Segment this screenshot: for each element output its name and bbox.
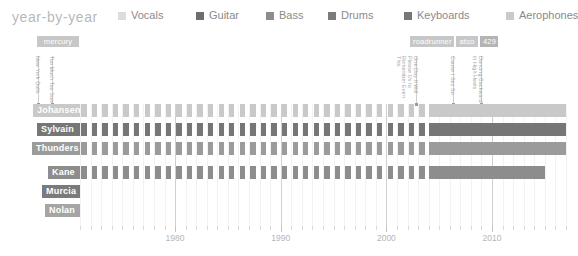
activity-cell[interactable] <box>134 142 139 155</box>
album-marker[interactable]: Cause I Sez So <box>453 56 454 104</box>
activity-cell[interactable] <box>282 104 287 117</box>
activity-cell[interactable] <box>314 166 319 179</box>
activity-cell[interactable] <box>419 104 424 117</box>
activity-cell[interactable] <box>187 104 192 117</box>
activity-cell[interactable] <box>208 104 213 117</box>
member-label-kane[interactable]: Kane <box>48 166 80 179</box>
record-label-chip-mercury[interactable]: mercury <box>37 36 79 47</box>
activity-cell[interactable] <box>123 104 128 117</box>
activity-cell[interactable] <box>303 104 308 117</box>
activity-cell[interactable] <box>155 104 160 117</box>
activity-cell[interactable] <box>335 123 340 136</box>
activity-cell[interactable] <box>229 142 234 155</box>
activity-cell[interactable] <box>377 104 382 117</box>
activity-cell[interactable] <box>345 104 350 117</box>
activity-cell[interactable] <box>271 166 276 179</box>
activity-cell[interactable] <box>324 123 329 136</box>
activity-cell[interactable] <box>366 166 371 179</box>
activity-cell[interactable] <box>409 142 414 155</box>
activity-cell[interactable] <box>166 104 171 117</box>
activity-cell[interactable] <box>261 104 266 117</box>
activity-cell[interactable] <box>398 142 403 155</box>
activity-cell[interactable] <box>113 142 118 155</box>
activity-cell[interactable] <box>366 104 371 117</box>
activity-cell[interactable] <box>366 142 371 155</box>
activity-cell[interactable] <box>398 123 403 136</box>
activity-cell[interactable] <box>176 104 181 117</box>
activity-cell[interactable] <box>229 166 234 179</box>
activity-cell[interactable] <box>282 142 287 155</box>
activity-cell[interactable] <box>335 166 340 179</box>
activity-cell[interactable] <box>166 142 171 155</box>
activity-cell[interactable] <box>176 166 181 179</box>
activity-cell[interactable] <box>303 142 308 155</box>
activity-cell[interactable] <box>261 166 266 179</box>
album-marker[interactable]: Too Much Too Soon <box>52 56 53 104</box>
legend-item-aerophones[interactable]: Aerophones <box>506 10 578 21</box>
activity-cell[interactable] <box>166 166 171 179</box>
activity-cell[interactable] <box>388 123 393 136</box>
activity-cell[interactable] <box>187 142 192 155</box>
activity-cell[interactable] <box>134 123 139 136</box>
activity-cell[interactable] <box>81 142 86 155</box>
activity-cell[interactable] <box>123 123 128 136</box>
activity-cell[interactable] <box>388 142 393 155</box>
member-label-nolan[interactable]: Nolan <box>45 204 80 217</box>
activity-cell[interactable] <box>377 166 382 179</box>
activity-cell[interactable] <box>145 123 150 136</box>
activity-cell[interactable] <box>229 104 234 117</box>
record-label-chip-atco[interactable]: atco <box>456 36 478 47</box>
activity-cell[interactable] <box>123 166 128 179</box>
activity-cell[interactable] <box>208 123 213 136</box>
activity-cell[interactable] <box>113 166 118 179</box>
activity-cell[interactable] <box>388 104 393 117</box>
activity-cell[interactable] <box>409 166 414 179</box>
activity-cell[interactable] <box>356 123 361 136</box>
activity-cell[interactable] <box>187 166 192 179</box>
activity-cell[interactable] <box>145 104 150 117</box>
activity-cell[interactable] <box>398 166 403 179</box>
activity-cell[interactable] <box>271 123 276 136</box>
activity-cell[interactable] <box>419 123 424 136</box>
album-marker[interactable]: Dancing Backward in High Heels <box>481 56 482 104</box>
activity-cell[interactable] <box>166 123 171 136</box>
activity-cell[interactable] <box>197 166 202 179</box>
activity-span[interactable] <box>429 104 566 117</box>
activity-cell[interactable] <box>250 166 255 179</box>
activity-cell[interactable] <box>293 166 298 179</box>
activity-cell[interactable] <box>345 123 350 136</box>
record-label-chip-429[interactable]: 429 <box>480 36 498 47</box>
activity-cell[interactable] <box>155 142 160 155</box>
activity-cell[interactable] <box>92 123 97 136</box>
activity-span[interactable] <box>429 123 566 136</box>
activity-cell[interactable] <box>113 123 118 136</box>
activity-cell[interactable] <box>176 123 181 136</box>
activity-cell[interactable] <box>356 142 361 155</box>
album-marker[interactable]: New York Dolls <box>38 56 39 104</box>
activity-cell[interactable] <box>398 104 403 117</box>
activity-cell[interactable] <box>240 142 245 155</box>
activity-span[interactable] <box>429 142 566 155</box>
activity-cell[interactable] <box>197 142 202 155</box>
record-label-chip-roadrunner[interactable]: roadrunner <box>410 36 454 47</box>
legend-item-guitar[interactable]: Guitar <box>196 10 239 21</box>
activity-cell[interactable] <box>419 166 424 179</box>
activity-cell[interactable] <box>250 142 255 155</box>
activity-cell[interactable] <box>250 123 255 136</box>
activity-cell[interactable] <box>102 166 107 179</box>
activity-cell[interactable] <box>92 104 97 117</box>
activity-cell[interactable] <box>208 142 213 155</box>
activity-cell[interactable] <box>176 142 181 155</box>
activity-cell[interactable] <box>282 123 287 136</box>
member-label-sylvain[interactable]: Sylvain <box>37 123 80 136</box>
activity-cell[interactable] <box>356 166 361 179</box>
activity-cell[interactable] <box>81 104 86 117</box>
activity-cell[interactable] <box>335 104 340 117</box>
activity-cell[interactable] <box>250 104 255 117</box>
activity-cell[interactable] <box>197 104 202 117</box>
activity-cell[interactable] <box>92 142 97 155</box>
member-label-murcia[interactable]: Murcia <box>42 185 80 198</box>
activity-cell[interactable] <box>145 166 150 179</box>
activity-cell[interactable] <box>314 104 319 117</box>
activity-cell[interactable] <box>229 123 234 136</box>
